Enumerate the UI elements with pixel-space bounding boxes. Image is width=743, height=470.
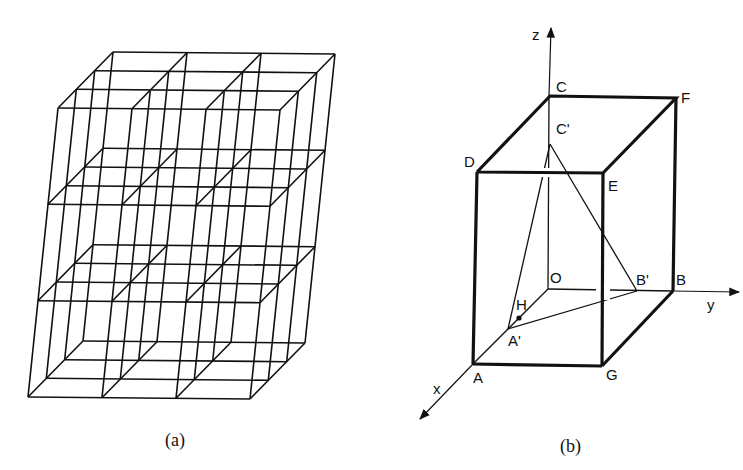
label-C: C bbox=[556, 78, 567, 95]
lattice-edge bbox=[231, 53, 261, 342]
lattice-edge bbox=[305, 54, 335, 343]
lattice-edge bbox=[268, 91, 298, 380]
edge-O-A bbox=[473, 289, 548, 364]
label-C-prime: C' bbox=[556, 120, 570, 137]
lattice-edge bbox=[132, 53, 187, 109]
label-x: x bbox=[433, 380, 441, 397]
label-D: D bbox=[464, 153, 475, 170]
label-F: F bbox=[681, 89, 690, 106]
y-axis bbox=[673, 291, 739, 292]
box-diagram: z y x C F D E C' O B' B H A' A G bbox=[420, 26, 739, 419]
segment-Cp-Bp bbox=[550, 144, 637, 291]
lattice-edge bbox=[58, 52, 113, 108]
lattice-edge bbox=[250, 343, 305, 399]
lattice-edge bbox=[270, 150, 325, 206]
caption-a: (a) bbox=[165, 430, 185, 451]
lattice-edge bbox=[102, 342, 157, 398]
label-y: y bbox=[707, 296, 715, 313]
lattice-edge bbox=[287, 73, 317, 362]
x-axis bbox=[420, 364, 473, 419]
label-O: O bbox=[550, 269, 562, 286]
lattice-edge bbox=[194, 91, 224, 380]
figure-canvas: (a) z y x C F D E bbox=[0, 0, 743, 470]
top-face bbox=[477, 96, 676, 173]
lattice-edge bbox=[213, 72, 243, 361]
lattice-edge bbox=[186, 246, 241, 302]
lattice-edge bbox=[157, 53, 187, 342]
edge-D-A bbox=[473, 172, 477, 364]
lattice-edge bbox=[113, 52, 335, 54]
lattice-edge bbox=[260, 247, 315, 303]
lattice-edge bbox=[206, 53, 261, 109]
edge-A-G bbox=[473, 364, 602, 366]
label-H: H bbox=[516, 296, 527, 313]
caption-b: (b) bbox=[560, 436, 581, 457]
lattice-edge bbox=[28, 341, 83, 397]
lattice-edge bbox=[38, 245, 93, 301]
lattice-edge bbox=[139, 71, 169, 360]
lattice-edge bbox=[176, 342, 231, 398]
cubic-lattice-diagram bbox=[28, 52, 335, 399]
edge-O-B bbox=[548, 289, 673, 291]
lattice-edge bbox=[120, 90, 150, 379]
z-axis bbox=[549, 28, 551, 96]
lattice-edge bbox=[102, 109, 132, 398]
label-A: A bbox=[473, 369, 483, 386]
lattice-edge bbox=[250, 110, 280, 399]
lattice-edge bbox=[65, 71, 95, 360]
label-B-prime: B' bbox=[636, 271, 649, 288]
lattice-edge bbox=[176, 109, 206, 398]
lattice-edge bbox=[280, 54, 335, 110]
edge-E-G bbox=[602, 173, 603, 366]
label-E: E bbox=[608, 177, 618, 194]
edge-G-B bbox=[602, 291, 673, 366]
label-z: z bbox=[532, 26, 540, 43]
point-H bbox=[516, 315, 521, 320]
edge-C-O bbox=[548, 96, 549, 289]
lattice-edge bbox=[122, 149, 177, 205]
lattice-edge bbox=[46, 378, 268, 380]
label-G: G bbox=[606, 366, 618, 383]
label-A-prime: A' bbox=[508, 332, 521, 349]
lattice-edge bbox=[28, 108, 58, 397]
lattice-edge bbox=[95, 71, 317, 73]
lattice-edge bbox=[112, 245, 167, 301]
lattice-edge bbox=[46, 89, 76, 378]
lattice-edge bbox=[83, 52, 113, 341]
label-B: B bbox=[676, 271, 686, 288]
lattice-edge bbox=[196, 150, 251, 206]
edge-F-B bbox=[673, 98, 676, 291]
lattice-edge bbox=[28, 397, 250, 399]
lattice-edge bbox=[48, 148, 103, 204]
